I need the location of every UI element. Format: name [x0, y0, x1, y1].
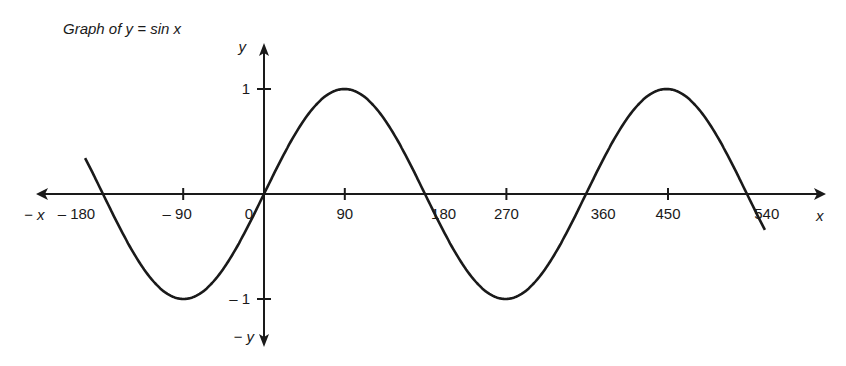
- axes: [36, 43, 826, 347]
- y-axis-negative-label: − y: [234, 328, 256, 345]
- x-tick-label: 360: [591, 205, 616, 222]
- chart-title: Graph of y = sin x: [63, 20, 181, 37]
- x-tick-label: 270: [494, 205, 519, 222]
- x-tick-label: 540: [754, 205, 779, 222]
- x-axis-negative-label: − x: [24, 206, 45, 223]
- y-tick-label: – 1: [229, 290, 250, 307]
- y-axis-label: y: [238, 38, 248, 55]
- x-tick-label: 450: [655, 205, 680, 222]
- x-tick-label: – 180: [58, 205, 96, 222]
- sine-graph: Graph of y = sin x – 180– 90090180270360…: [0, 0, 846, 366]
- x-tick-label: – 90: [163, 205, 192, 222]
- x-axis-label: x: [815, 207, 824, 224]
- y-tick-label: 1: [242, 80, 250, 97]
- x-tick-label: 90: [336, 205, 353, 222]
